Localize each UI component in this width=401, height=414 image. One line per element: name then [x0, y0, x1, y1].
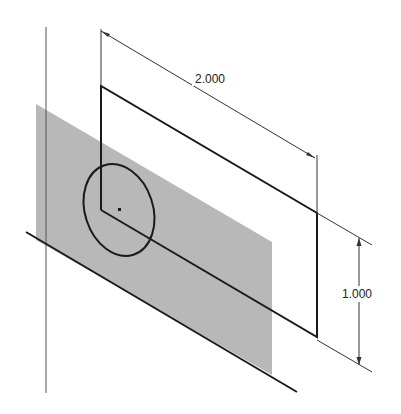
- dim-arrow-icon: [357, 238, 362, 246]
- dim-width-label[interactable]: 2.000: [195, 72, 225, 86]
- dim-height-label[interactable]: 1.000: [342, 287, 372, 301]
- dim-extension-bottom: [317, 340, 372, 372]
- dim-extension-top: [317, 213, 372, 245]
- dim-line-width[interactable]: [101, 31, 315, 158]
- work-plane[interactable]: [36, 104, 272, 375]
- circle-center-point[interactable]: [118, 208, 121, 211]
- sketch-canvas[interactable]: 2.000 1.000: [0, 0, 401, 414]
